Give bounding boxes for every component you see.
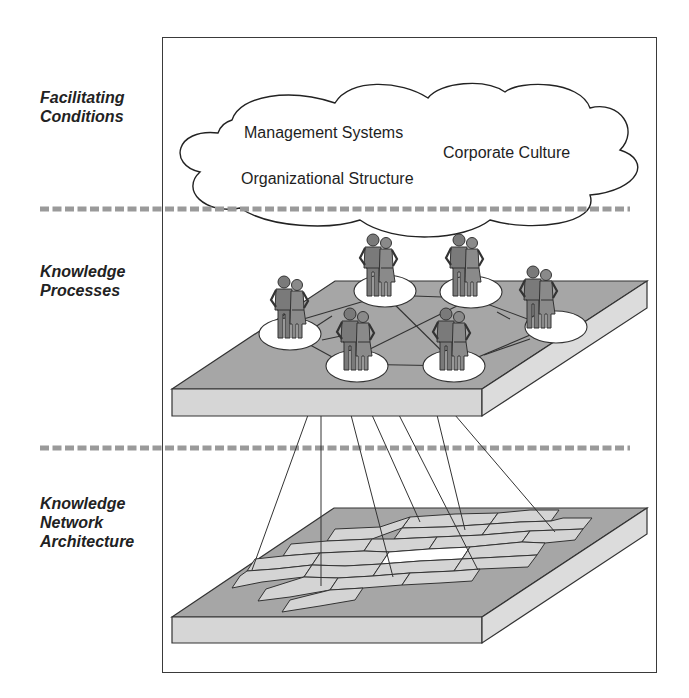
cloud-item-corporate-culture: Corporate Culture bbox=[443, 144, 570, 162]
cloud-item-organizational-structure: Organizational Structure bbox=[241, 170, 414, 188]
cloud-item-management-systems: Management Systems bbox=[244, 124, 403, 142]
diagram-graphic bbox=[0, 0, 689, 698]
